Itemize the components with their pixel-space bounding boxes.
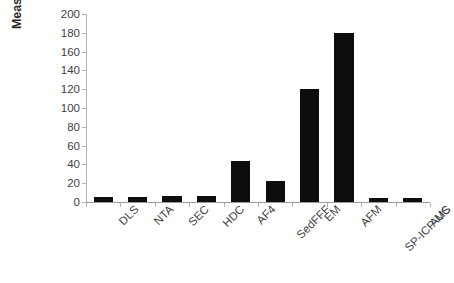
y-axis-tick-label: 40 — [44, 157, 80, 171]
y-axis-tick-label: 100 — [44, 101, 80, 115]
y-axis-tick-mark — [82, 108, 86, 109]
y-axis-tick-label: 180 — [44, 26, 80, 40]
x-axis-tick-label: AFM — [358, 203, 384, 229]
bar — [128, 197, 147, 202]
x-axis-tick-labels: DLSNTASECHDCAF4SedFFFEMAFMSP-ICP-MSAUC — [86, 203, 436, 281]
bar — [334, 33, 353, 202]
y-axis-title-line-1: Measurement duration — [10, 0, 26, 29]
y-axis-title: Measurement duration in min — [4, 0, 48, 58]
y-axis-tick-label: 200 — [44, 7, 80, 21]
bar — [197, 196, 216, 202]
y-axis-tick-mark — [82, 146, 86, 147]
bar — [403, 198, 422, 202]
y-axis-tick-mark — [82, 52, 86, 53]
y-axis-tick-mark — [82, 164, 86, 165]
x-axis-tick-label: HDC — [221, 203, 248, 230]
y-axis-tick-mark — [82, 127, 86, 128]
y-axis-tick-mark — [82, 14, 86, 15]
y-axis-tick-mark — [82, 70, 86, 71]
y-axis-tick-labels: 200180160140120100806040200 — [44, 7, 80, 209]
y-axis-tick-label: 80 — [44, 120, 80, 134]
bar — [162, 196, 181, 202]
bar — [300, 89, 319, 202]
y-axis-tick-label: 160 — [44, 45, 80, 59]
y-axis-tick-label: 20 — [44, 176, 80, 190]
y-axis-tick-mark — [82, 89, 86, 90]
x-axis-tick-label: AF4 — [254, 203, 278, 227]
bars-layer — [86, 14, 430, 202]
y-axis-tick-label: 120 — [44, 82, 80, 96]
bar — [369, 198, 388, 202]
x-axis-tick-label: SEC — [186, 203, 212, 229]
x-axis-tick-label: DLS — [117, 203, 142, 228]
y-axis-tick-label: 0 — [44, 195, 80, 209]
y-axis-tick-label: 60 — [44, 139, 80, 153]
x-axis-tick-label: NTA — [151, 203, 176, 228]
y-axis-tick-mark — [82, 33, 86, 34]
y-axis-tick-label: 140 — [44, 63, 80, 77]
y-axis-tick-mark — [82, 183, 86, 184]
plot-area — [86, 14, 430, 202]
bar — [231, 161, 250, 202]
bar — [266, 181, 285, 202]
bar — [94, 197, 113, 202]
